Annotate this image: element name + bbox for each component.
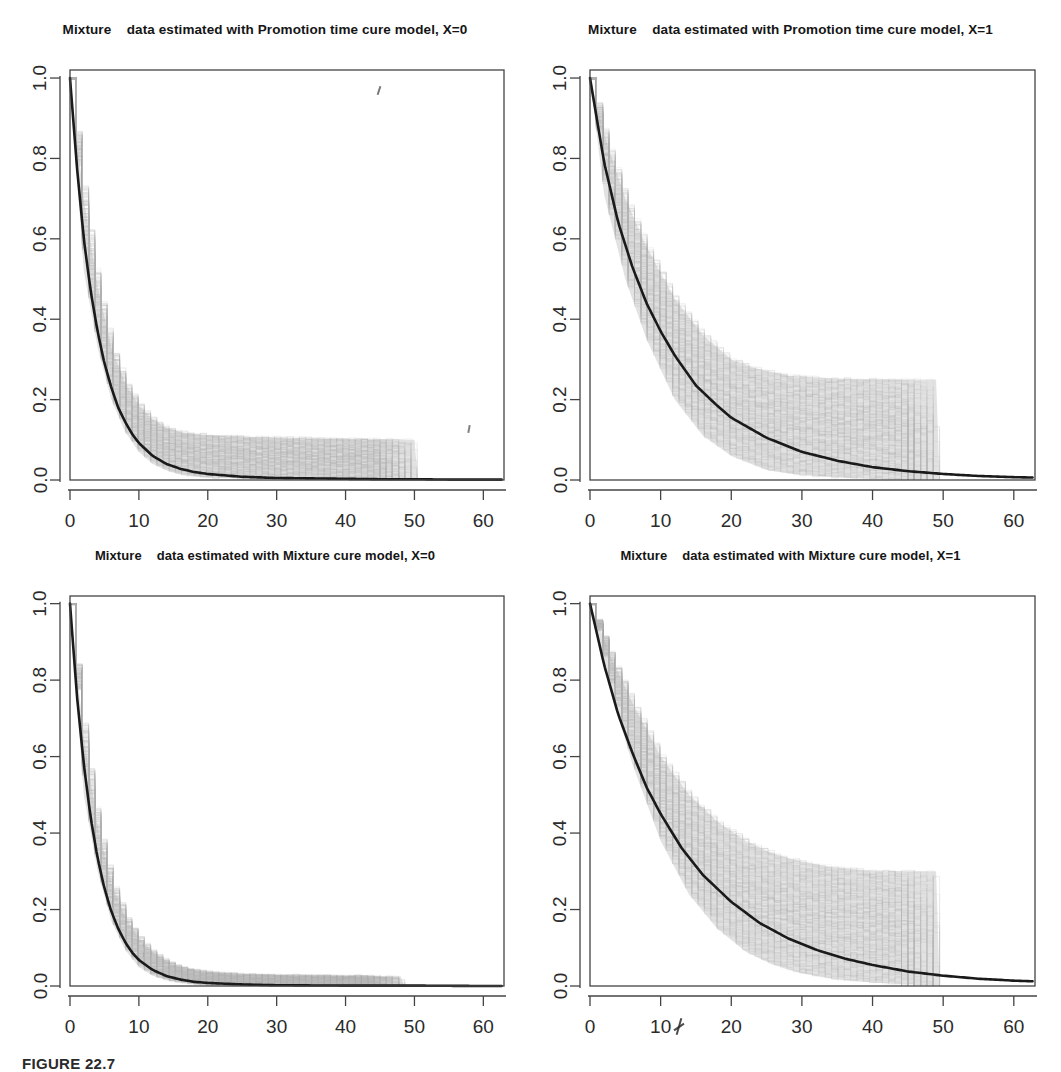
x-axis-tick-label: 0 <box>585 1016 596 1037</box>
y-axis-tick-label: 1.0 <box>30 65 51 91</box>
y-axis-tick-label: 0.0 <box>30 467 51 493</box>
x-axis-tick-label: 40 <box>335 510 356 531</box>
y-axis-tick-label: 0.4 <box>550 819 571 846</box>
x-axis-tick-label: 10 <box>650 510 671 531</box>
panel-mixture-x1: Mixture data estimated with Mixture cure… <box>520 548 1061 1048</box>
y-axis-tick-label: 0.4 <box>550 306 571 333</box>
x-axis-tick-label: 30 <box>266 510 287 531</box>
x-axis-tick-label: 40 <box>862 1016 883 1037</box>
x-axis-tick-label: 60 <box>1003 510 1024 531</box>
x-axis-tick-label: 60 <box>473 1016 494 1037</box>
y-axis-tick-label: 0.8 <box>30 145 51 171</box>
panel-title: Mixture data estimated with Mixture cure… <box>0 548 530 563</box>
panel-promotion-x0: Mixture data estimated with Promotion ti… <box>0 22 530 542</box>
y-axis-tick-label: 0.2 <box>30 896 51 922</box>
y-axis-tick-label: 0.6 <box>550 743 571 769</box>
panel-title: Mixture data estimated with Promotion ti… <box>520 22 1061 37</box>
x-axis-tick-label: 60 <box>1003 1016 1024 1037</box>
x-axis-tick-label: 30 <box>791 510 812 531</box>
y-axis-tick-label: 0.8 <box>550 667 571 693</box>
x-axis-tick-label: 0 <box>65 1016 76 1037</box>
x-axis-tick-label: 50 <box>404 1016 425 1037</box>
y-axis-tick-label: 0.2 <box>550 386 571 412</box>
y-axis-tick-label: 0.6 <box>30 226 51 252</box>
x-axis-tick-label: 40 <box>335 1016 356 1037</box>
x-axis-tick-label: 20 <box>197 510 218 531</box>
y-axis-tick-label: 0.0 <box>550 467 571 493</box>
x-axis-tick-label: 10 <box>128 1016 149 1037</box>
y-axis-tick-label: 1.0 <box>550 590 571 616</box>
plot-area-mixture-x0: 01020304050600.00.20.40.60.81.0 <box>0 574 530 1048</box>
x-axis-tick-label: 50 <box>404 510 425 531</box>
y-axis-tick-label: 1.0 <box>30 590 51 616</box>
x-axis-tick-label: 40 <box>862 510 883 531</box>
x-axis-tick-label: 0 <box>65 510 76 531</box>
x-axis-tick-label: 20 <box>721 510 742 531</box>
x-axis-tick-label: 30 <box>791 1016 812 1037</box>
x-axis-tick-label: 50 <box>933 510 954 531</box>
plot-area-promotion-x1: 01020304050600.00.20.40.60.81.0 <box>520 48 1061 542</box>
y-axis-tick-label: 0.4 <box>30 819 51 846</box>
y-axis-tick-label: 0.2 <box>550 896 571 922</box>
plot-area-mixture-x1: 01020304050600.00.20.40.60.81.0 <box>520 574 1061 1048</box>
x-axis-tick-label: 10 <box>650 1016 671 1037</box>
y-axis-tick-label: 0.2 <box>30 386 51 412</box>
x-axis-tick-label: 20 <box>197 1016 218 1037</box>
panel-title: Mixture data estimated with Mixture cure… <box>520 548 1061 563</box>
x-axis-tick-label: 30 <box>266 1016 287 1037</box>
x-axis-tick-label: 50 <box>933 1016 954 1037</box>
y-axis-tick-label: 0.6 <box>30 743 51 769</box>
y-axis-tick-label: 0.0 <box>550 973 571 999</box>
x-axis-tick-label: 10 <box>128 510 149 531</box>
survival-plot-svg: 01020304050600.00.20.40.60.81.0 <box>0 48 530 542</box>
panel-mixture-x0: Mixture data estimated with Mixture cure… <box>0 548 530 1048</box>
y-axis-tick-label: 0.8 <box>550 145 571 171</box>
y-axis-tick-label: 0.4 <box>30 306 51 333</box>
panel-promotion-x1: Mixture data estimated with Promotion ti… <box>520 22 1061 542</box>
x-axis-tick-label: 60 <box>473 510 494 531</box>
survival-plot-svg: 01020304050600.00.20.40.60.81.0 <box>520 48 1061 542</box>
y-axis-tick-label: 0.6 <box>550 226 571 252</box>
survival-plot-svg: 01020304050600.00.20.40.60.81.0 <box>520 574 1061 1048</box>
figure-caption: FIGURE 22.7 <box>22 1055 115 1072</box>
y-axis-tick-label: 1.0 <box>550 65 571 91</box>
y-axis-tick-label: 0.8 <box>30 667 51 693</box>
panel-title: Mixture data estimated with Promotion ti… <box>0 22 530 37</box>
y-axis-tick-label: 0.0 <box>30 973 51 999</box>
x-axis-tick-label: 0 <box>585 510 596 531</box>
x-axis-tick-label: 20 <box>721 1016 742 1037</box>
survival-plot-svg: 01020304050600.00.20.40.60.81.0 <box>0 574 530 1048</box>
plot-area-promotion-x0: 01020304050600.00.20.40.60.81.0 <box>0 48 530 542</box>
